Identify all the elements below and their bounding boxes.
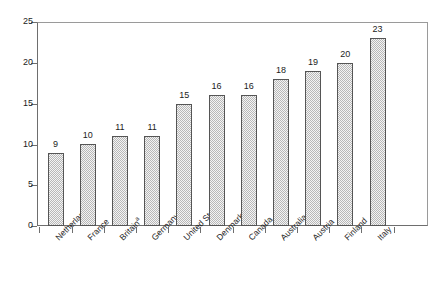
bar-value-label: 16 (235, 82, 263, 91)
x-tick-mark (168, 227, 169, 233)
bar-value-label: 11 (106, 123, 134, 132)
bar-value-label: 9 (42, 140, 70, 149)
bar-value-label: 19 (299, 58, 327, 67)
bar-value-label: 18 (267, 66, 295, 75)
x-tick-mark (329, 227, 330, 233)
bar (48, 153, 64, 226)
bar-chart: 0 5 10 15 20 25 9Netherlands10France11Br… (0, 0, 442, 294)
bar (209, 95, 225, 226)
x-tick-mark (233, 227, 234, 233)
bar-value-label: 10 (74, 131, 102, 140)
bar (144, 136, 160, 226)
bars-layer: 9Netherlands10France11Britaina11Germany1… (0, 0, 442, 294)
bar (305, 71, 321, 226)
bar-value-label: 15 (170, 91, 198, 100)
x-tick-mark (394, 227, 395, 233)
bar (273, 79, 289, 226)
bar (370, 38, 386, 226)
x-tick-mark (200, 227, 201, 233)
bar (337, 63, 353, 226)
x-tick-mark (297, 227, 298, 233)
bar (241, 95, 257, 226)
bar (176, 104, 192, 226)
x-tick-mark (39, 227, 40, 233)
x-tick-mark (136, 227, 137, 233)
x-category-label: Italy (376, 225, 393, 242)
bar-value-label: 16 (203, 82, 231, 91)
bar (112, 136, 128, 226)
bar (80, 144, 96, 226)
x-tick-mark (104, 227, 105, 233)
bar-value-label: 11 (138, 123, 166, 132)
x-tick-mark (265, 227, 266, 233)
x-tick-mark (72, 227, 73, 233)
bar-value-label: 23 (364, 25, 392, 34)
bar-value-label: 20 (331, 50, 359, 59)
x-tick-mark (361, 227, 362, 233)
